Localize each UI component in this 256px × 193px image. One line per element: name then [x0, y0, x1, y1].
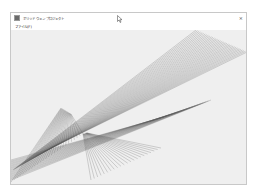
window-title: ポリッド ウェン プロジェクト	[23, 16, 64, 21]
app-window: ポリッド ウェン プロジェクト × ファイル(F)	[10, 12, 247, 185]
menu-file[interactable]: ファイル(F)	[15, 24, 32, 29]
window-icon	[14, 15, 20, 21]
drawing-canvas[interactable]	[11, 30, 246, 184]
title-bar[interactable]: ポリッド ウェン プロジェクト ×	[11, 13, 246, 23]
line-art	[11, 30, 246, 185]
mouse-pointer-icon	[117, 15, 123, 23]
menu-bar: ファイル(F)	[11, 23, 246, 30]
close-button[interactable]: ×	[239, 14, 243, 22]
